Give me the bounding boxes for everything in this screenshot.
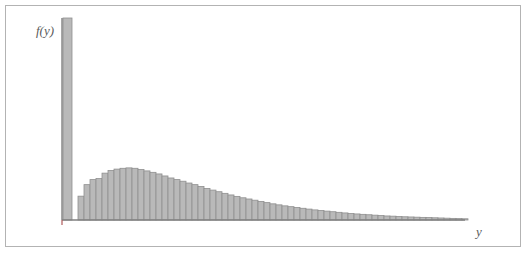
histogram-bar — [354, 214, 360, 220]
histogram-bar — [216, 192, 222, 220]
histogram-bars — [63, 18, 468, 220]
histogram-bar — [174, 180, 180, 220]
histogram-bar — [210, 190, 216, 220]
histogram-bar — [192, 185, 198, 220]
histogram-bar — [78, 196, 84, 220]
figure-root: f(y) y — [0, 0, 528, 255]
histogram-bar — [90, 180, 96, 220]
histogram-bar — [312, 210, 318, 220]
histogram-bar — [318, 211, 324, 220]
histogram-bar — [270, 204, 276, 220]
histogram-bar — [180, 181, 186, 220]
histogram-bar — [96, 179, 102, 220]
histogram-bar — [360, 214, 366, 220]
histogram-bar — [156, 174, 162, 220]
histogram-spike-bar — [63, 18, 72, 220]
histogram-bar — [168, 178, 174, 220]
histogram-bar — [138, 170, 144, 221]
histogram-bar — [348, 214, 354, 220]
histogram-bar — [162, 176, 168, 220]
histogram-bar — [372, 215, 378, 220]
histogram-bar — [330, 212, 336, 220]
histogram-bar — [366, 215, 372, 220]
histogram-bar — [258, 201, 264, 220]
histogram-bar — [120, 168, 126, 220]
histogram-bar — [228, 195, 234, 220]
histogram-bar — [150, 172, 156, 220]
histogram-bar — [252, 200, 258, 220]
histogram-bar — [198, 186, 204, 220]
histogram-bar — [240, 198, 246, 220]
x-axis-label: y — [474, 224, 482, 239]
histogram-bar — [204, 188, 210, 220]
histogram-bar — [108, 171, 114, 220]
histogram-bar — [288, 207, 294, 220]
histogram-bar — [294, 207, 300, 220]
histogram-bar — [126, 168, 132, 220]
histogram-bar — [132, 168, 138, 220]
histogram-bar — [246, 199, 252, 220]
histogram-bar — [306, 209, 312, 220]
histogram-plot: f(y) y — [0, 0, 528, 255]
histogram-bar — [342, 213, 348, 220]
histogram-bar — [264, 203, 270, 220]
histogram-bar — [276, 205, 282, 220]
histogram-bar — [336, 212, 342, 220]
histogram-bar — [186, 183, 192, 220]
histogram-bar — [84, 185, 90, 220]
histogram-bar — [102, 173, 108, 220]
histogram-bar — [300, 208, 306, 220]
y-axis-label: f(y) — [36, 23, 54, 38]
histogram-bar — [234, 196, 240, 220]
histogram-bar — [222, 193, 228, 220]
histogram-bar — [282, 206, 288, 220]
histogram-bar — [144, 171, 150, 220]
histogram-bar — [114, 169, 120, 220]
histogram-bar — [324, 211, 330, 220]
